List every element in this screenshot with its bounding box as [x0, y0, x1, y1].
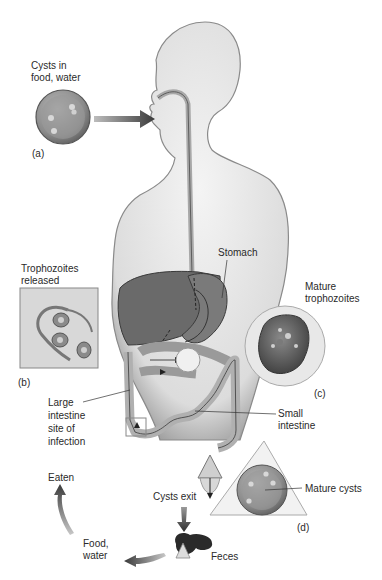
trophozoite-panel-b — [20, 288, 98, 368]
label-trophozoites-released: Trophozoites released — [21, 263, 78, 287]
cysts-exit-arrow — [177, 507, 191, 532]
rectum-marker — [198, 455, 222, 478]
trophozoite-panel-c — [245, 306, 325, 386]
label-small-intestine: Small intestine — [278, 408, 315, 432]
cyst-panel-d — [210, 441, 307, 515]
label-food-water: Food, water — [83, 538, 109, 562]
label-cysts-exit: Cysts exit — [153, 491, 196, 503]
label-mature-trophozoites: Mature trophozoites — [305, 281, 359, 305]
label-mature-cysts: Mature cysts — [305, 483, 362, 495]
label-panel-c: (c) — [314, 388, 326, 400]
label-panel-b: (b) — [18, 377, 30, 389]
label-feces: Feces — [211, 551, 238, 563]
label-large-intestine: Large intestine site of infection — [48, 396, 85, 448]
eaten-arrow — [54, 484, 74, 535]
feces-shape — [175, 533, 212, 558]
label-cysts-in-food-water: Cysts in food, water — [31, 60, 80, 84]
label-eaten: Eaten — [48, 472, 74, 484]
food-water-arrow — [124, 553, 166, 567]
ingestion-arrow — [94, 110, 155, 128]
gallbladder-sphere — [176, 348, 200, 372]
label-panel-d: (d) — [297, 522, 309, 534]
cyst-a — [36, 90, 90, 144]
label-panel-a: (a) — [32, 148, 44, 160]
label-stomach: Stomach — [218, 247, 257, 259]
